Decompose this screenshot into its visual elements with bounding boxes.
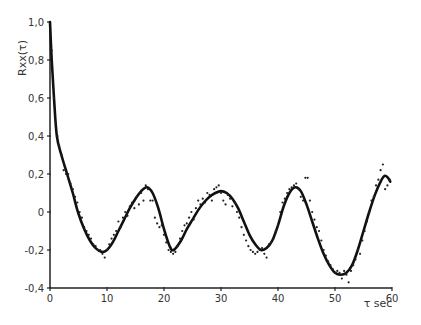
data-point [218, 184, 220, 186]
data-point [104, 257, 106, 259]
data-point [345, 274, 347, 276]
data-point [343, 270, 345, 272]
data-point [243, 234, 245, 236]
data-point [389, 179, 391, 181]
data-point [373, 196, 375, 198]
data-point [106, 249, 108, 251]
x-tick-label: 10 [101, 293, 114, 304]
data-point [154, 217, 156, 219]
y-tick-label: 1,0 [28, 17, 44, 28]
data-point [179, 238, 181, 240]
data-point [354, 258, 356, 260]
data-point [334, 272, 336, 274]
data-point [115, 230, 117, 232]
data-point [190, 211, 192, 213]
data-point [186, 222, 188, 224]
data-point [113, 234, 115, 236]
data-point [266, 257, 268, 259]
data-point [117, 220, 119, 222]
data-point [199, 203, 201, 205]
data-point [81, 217, 83, 219]
data-point [74, 196, 76, 198]
data-point [377, 179, 379, 181]
data-point [126, 215, 128, 217]
data-point [380, 169, 382, 171]
data-point [204, 201, 206, 203]
data-point [227, 194, 229, 196]
data-point [352, 264, 354, 266]
data-point [300, 196, 302, 198]
data-point [209, 194, 211, 196]
data-point [101, 253, 103, 255]
data-point [318, 230, 320, 232]
data-point [357, 249, 359, 251]
data-point [124, 211, 126, 213]
data-point [193, 219, 195, 221]
data-point [174, 251, 176, 253]
data-point [311, 211, 313, 213]
y-tick-label: 0,4 [28, 131, 44, 142]
data-point [220, 192, 222, 194]
data-point [268, 243, 270, 245]
data-point [165, 241, 167, 243]
data-point [167, 249, 169, 251]
data-point [136, 196, 138, 198]
data-point [67, 173, 69, 175]
data-point [320, 239, 322, 241]
data-point [229, 198, 231, 200]
data-point [131, 201, 133, 203]
ticks: -0,4-0,200,20,40,60,81,00102030405060 [24, 17, 398, 304]
data-point [60, 154, 62, 156]
data-point [307, 177, 309, 179]
data-point [341, 277, 343, 279]
data-point [145, 184, 147, 186]
data-point [83, 226, 85, 228]
data-point [213, 188, 215, 190]
data-point [368, 211, 370, 213]
y-tick-label: 0,8 [28, 55, 44, 66]
data-point [263, 253, 265, 255]
data-point [120, 226, 122, 228]
x-tick-label: 40 [272, 293, 285, 304]
data-point [245, 239, 247, 241]
data-point [85, 230, 87, 232]
data-point [170, 251, 172, 253]
data-point [338, 272, 340, 274]
x-axis-label: τ sec [364, 297, 393, 310]
data-point [250, 249, 252, 251]
data-point [95, 245, 97, 247]
data-point [69, 182, 71, 184]
data-point [279, 211, 281, 213]
data-point [79, 211, 81, 213]
data-point [129, 205, 131, 207]
y-tick-label: 0 [38, 207, 44, 218]
data-point [97, 249, 99, 251]
data-point [256, 251, 258, 253]
data-point [272, 238, 274, 240]
data-point [366, 220, 368, 222]
data-point [149, 200, 151, 202]
data-point [231, 205, 233, 207]
data-point [297, 188, 299, 190]
data-point [350, 270, 352, 272]
data-point [336, 270, 338, 272]
data-point [53, 97, 55, 99]
data-point [252, 251, 254, 253]
y-tick-label: -0,2 [24, 245, 44, 256]
data-point [133, 207, 135, 209]
data-point [177, 245, 179, 247]
data-point [195, 207, 197, 209]
data-point [247, 245, 249, 247]
data-point [51, 49, 53, 51]
data-point [288, 188, 290, 190]
data-point [224, 203, 226, 205]
data-point [348, 281, 350, 283]
data-point [332, 268, 334, 270]
data-point [65, 173, 67, 175]
data-point [327, 260, 329, 262]
data-point [234, 201, 236, 203]
data-point [386, 184, 388, 186]
data-point [197, 200, 199, 202]
data-point [222, 200, 224, 202]
data-point [211, 200, 213, 202]
